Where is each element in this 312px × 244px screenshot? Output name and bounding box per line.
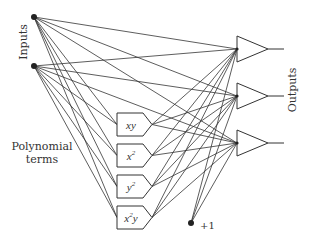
output-node-out2	[235, 83, 284, 109]
output-triangle-icon	[237, 130, 268, 156]
output-node-out3	[235, 130, 284, 156]
edge-term-to-output	[152, 49, 237, 156]
output-nodes	[235, 36, 284, 156]
term-label: xy	[125, 119, 136, 131]
edge-input-to-output	[34, 17, 237, 49]
polynomial-term-x2y: x2y	[117, 206, 152, 229]
polynomial-terms-label-line1: Polynomial	[11, 140, 73, 153]
output-node-out1	[235, 36, 284, 62]
bias-node	[188, 220, 194, 226]
bias-label: +1	[200, 220, 215, 231]
edge-input-to-term	[34, 66, 117, 125]
edge-term-to-output	[152, 49, 237, 218]
network-diagram: xyx2y2x2y Inputs Outputs Polynomial term…	[0, 0, 312, 244]
edge-input-to-output	[34, 49, 237, 66]
input-node-in2	[31, 63, 37, 69]
edge-term-to-output	[152, 49, 237, 125]
edge-term-to-output	[152, 96, 237, 187]
polynomial-term-nodes: xyx2y2x2y	[117, 113, 152, 229]
edge-term-to-output	[152, 96, 237, 156]
edge-term-to-output	[152, 96, 237, 125]
edge-input-to-term	[34, 17, 117, 156]
edge-bias-to-output	[191, 49, 237, 223]
input-node-in1	[31, 14, 37, 20]
edge-input-to-term	[34, 66, 117, 187]
polynomial-term-xy: xy	[117, 113, 152, 136]
bias-dot	[188, 220, 194, 226]
output-triangle-icon	[237, 83, 268, 109]
outputs-label: Outputs	[286, 67, 299, 112]
output-junction-dot	[235, 141, 238, 144]
polynomial-term-x2: x2	[117, 144, 152, 167]
polynomial-terms-label-line2: terms	[26, 153, 59, 166]
output-junction-dot	[235, 94, 238, 97]
inputs-label: Inputs	[17, 24, 30, 60]
edge-input-to-term	[34, 17, 117, 218]
output-junction-dot	[235, 47, 238, 50]
polynomial-term-y2: y2	[117, 175, 152, 198]
edge-bias-to-output	[191, 96, 237, 223]
edge-term-to-output	[152, 96, 237, 218]
output-triangle-icon	[237, 36, 268, 62]
